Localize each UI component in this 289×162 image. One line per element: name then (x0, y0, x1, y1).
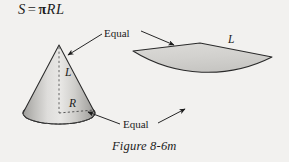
label-cone-slant-height: L (65, 66, 71, 78)
label-sector-radius: L (228, 33, 234, 45)
arrow-equal-top-to-cone-slant (68, 34, 102, 55)
label-equal-top: Equal (104, 27, 130, 39)
pi-symbol: π (38, 2, 46, 17)
figure-container: S=πRL Equal Equal L R L Figure 8-6m (0, 0, 289, 162)
label-cone-radius: R (69, 97, 76, 109)
label-equal-bottom: Equal (123, 118, 149, 130)
surface-area-formula: S=πRL (18, 1, 65, 18)
sector-figure (133, 43, 272, 72)
formula-lhs: S (18, 1, 26, 17)
figure-caption: Figure 8-6m (112, 139, 177, 154)
arrow-equal-bottom-to-sector-arc (158, 109, 185, 123)
formula-equals: = (26, 1, 39, 17)
sector-surface (133, 43, 272, 72)
arrow-equal-bottom-to-cone-base (88, 112, 120, 124)
cone-figure (23, 45, 95, 124)
arrow-equal-top-to-sector-edge (141, 31, 174, 45)
formula-rhs: RL (47, 1, 65, 17)
figure-graphics (0, 0, 289, 162)
